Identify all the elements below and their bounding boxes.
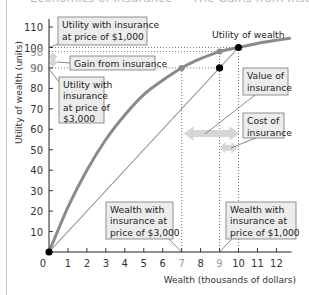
y-tick-label: 10 [30, 227, 43, 238]
data-point [216, 64, 223, 71]
x-tick-label: 7 [178, 258, 184, 269]
y-axis-title: Utility of wealth (units) [14, 41, 24, 144]
utility-with-insurance-3000-label-text: at price of [63, 102, 111, 113]
cost-of-insurance-arrow [220, 142, 238, 154]
wealth-3000-leader [168, 238, 182, 252]
data-point [217, 49, 223, 55]
value-of-insurance-label-text: Value of [247, 70, 285, 81]
y-tick-label: 50 [30, 145, 43, 156]
value-of-insurance-label-text: insurance [247, 82, 292, 93]
y-tick-label-highlight: 98 [30, 47, 43, 58]
y-tick-label: 20 [30, 206, 43, 217]
y-tick-label: 30 [30, 186, 43, 197]
gain-from-insurance-label: Gain from insurance [70, 56, 168, 70]
y-tick-label: 110 [24, 22, 43, 33]
x-tick-label: 1 [65, 258, 71, 269]
value-of-insurance-label: Value ofinsurance [243, 68, 292, 95]
gain-leader [57, 62, 70, 63]
x-tick-label: 10 [232, 258, 245, 269]
utility-with-insurance-3000-label-text: insurance [63, 90, 108, 101]
y-tick-label: 80 [30, 83, 43, 94]
wealth-with-insurance-3000-label-text: price of $3,000 [110, 227, 180, 238]
x-tick-label: 0 [40, 258, 46, 269]
wealth-with-insurance-3000-label: Wealth withinsurance atprice of $3,000 [106, 202, 180, 239]
wealth-with-insurance-3000-label-text: Wealth with [110, 204, 164, 215]
util-3000-leader [49, 69, 59, 82]
y-tick-label: 70 [30, 104, 43, 115]
data-point [235, 44, 242, 51]
utility-with-insurance-1000-label: Utility with insuranceat price of $1,000 [58, 17, 160, 45]
data-point [45, 248, 52, 255]
wealth-1000-leader [220, 238, 233, 252]
cost-of-insurance-label: Cost ofinsurance [243, 113, 292, 138]
y-tick-label: 60 [30, 124, 43, 135]
cost-of-insurance-label-text: Cost of [247, 115, 280, 126]
x-tick-label: 3 [103, 258, 109, 269]
x-tick-label: 5 [141, 258, 147, 269]
cost-of-insurance-label-text: insurance [247, 127, 292, 138]
utility-of-wealth-label: Utility of wealth [212, 29, 285, 40]
wealth-with-insurance-3000-label-text: insurance at [110, 215, 167, 226]
wealth-with-insurance-1000-label-text: price of $1,000 [230, 227, 300, 238]
utility-with-insurance-3000-label-text: Utility with [63, 79, 113, 90]
wealth-with-insurance-1000-label-text: Wealth with [230, 204, 284, 215]
annotations: Utility with insuranceat price of $1,000… [49, 17, 300, 252]
util-1000-leader [49, 44, 58, 48]
wealth-with-insurance-1000-label-text: insurance at [230, 215, 287, 226]
cost-leader [231, 137, 258, 148]
utility-with-insurance-3000-label: Utility withinsuranceat price of$3,000 [59, 77, 113, 124]
y-tick-label-highlight: 90 [30, 63, 43, 74]
wealth-with-insurance-1000-label: Wealth withinsurance atprice of $1,000 [226, 202, 300, 239]
x-axis-title: Wealth (thousands of dollars) [164, 275, 296, 285]
x-tick-label: 12 [270, 258, 283, 269]
utility-with-insurance-1000-label-text: at price of $1,000 [62, 31, 144, 42]
utility-with-insurance-3000-label-text: $3,000 [63, 113, 95, 124]
x-tick-label: 2 [84, 258, 90, 269]
x-tick-label: 6 [160, 258, 166, 269]
x-tick-label: 8 [197, 258, 203, 269]
data-point [179, 65, 185, 71]
utility-chart: 0123456789101112102030405060708090100110… [0, 0, 309, 295]
x-tick-label: 11 [251, 258, 264, 269]
x-tick-label: 4 [122, 258, 128, 269]
utility-with-insurance-1000-label-text: Utility with insurance [62, 19, 160, 30]
x-tick-label: 9 [216, 258, 222, 269]
y-tick-label: 40 [30, 165, 43, 176]
gain-from-insurance-label-text: Gain from insurance [74, 58, 168, 69]
